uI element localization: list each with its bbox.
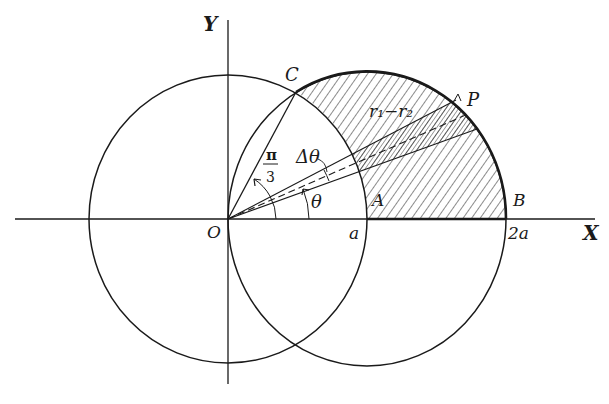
angle-arc-delta-theta [324, 170, 329, 181]
tick-label-a: a [349, 223, 359, 243]
delta-theta-label: Δθ [295, 146, 320, 167]
point-P-label: P [466, 89, 480, 110]
point-B-label: B [512, 190, 526, 210]
ray-OC [228, 92, 296, 219]
x-axis-label: X [581, 221, 600, 245]
y-axis-label: Y [203, 12, 219, 36]
pi-over-3-numerator: π [266, 146, 277, 164]
pi-over-3-denominator: 3 [266, 169, 275, 185]
tick-label-2a: 2a [507, 223, 529, 243]
point-A-label: A [370, 190, 384, 210]
origin-label: O [207, 222, 221, 242]
r1-minus-r2-label: r₁−r₂ [369, 101, 413, 121]
point-P-marker [454, 94, 461, 101]
theta-label: θ [311, 191, 322, 212]
polar-area-diagram: Y X O C P A B a 2a π 3 θ Δθ r₁−r₂ [0, 0, 609, 404]
angle-arc-theta [303, 189, 309, 219]
point-C-label: C [285, 64, 299, 85]
arrowhead-theta [302, 189, 309, 195]
